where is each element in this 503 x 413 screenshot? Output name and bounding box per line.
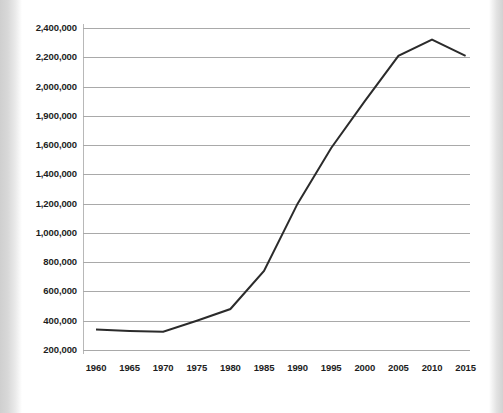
y-axis-tick-label: 1,600,000 (5, 140, 77, 150)
y-axis-tick-label: 1,000,000 (5, 228, 77, 238)
y-axis-tick-label: 1,200,000 (5, 199, 77, 209)
x-axis-tick-label: 2015 (446, 362, 486, 373)
chart-screenshot: 2,400,0002,200,0002,000,0001,900,0001,60… (0, 0, 503, 413)
y-axis-tick-label: 200,000 (5, 345, 77, 355)
y-axis-tick-label: 400,000 (5, 316, 77, 326)
gridline (83, 350, 470, 351)
y-axis-tick-label: 1,400,000 (5, 169, 77, 179)
page-edge-shadow-right (489, 0, 503, 413)
y-axis-tick-label: 800,000 (5, 257, 77, 267)
y-axis-tick-label: 1,900,000 (5, 111, 77, 121)
y-axis-tick-label: 2,200,000 (5, 52, 77, 62)
series-line-path (96, 40, 466, 332)
y-axis-tick-label: 2,000,000 (5, 82, 77, 92)
y-axis-tick-label: 2,400,000 (5, 23, 77, 33)
series-line-chart (83, 28, 470, 350)
y-axis-tick-label: 600,000 (5, 286, 77, 296)
plot-area (83, 28, 470, 350)
y-axis-tick-labels: 2,400,0002,200,0002,000,0001,900,0001,60… (0, 0, 77, 413)
x-axis-tick-labels: 1960196519701975198019851990199520002005… (0, 362, 503, 378)
